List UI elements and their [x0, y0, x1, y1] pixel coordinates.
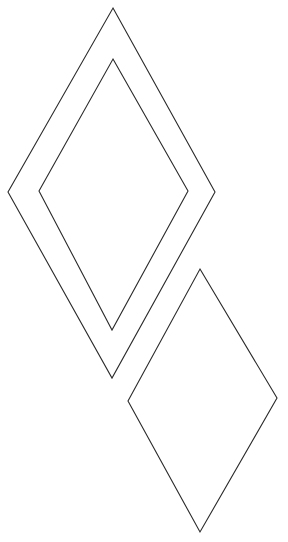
diamond-pattern-diagram [0, 0, 288, 542]
inner-diamond [39, 59, 188, 330]
outer-diamond [8, 8, 215, 378]
